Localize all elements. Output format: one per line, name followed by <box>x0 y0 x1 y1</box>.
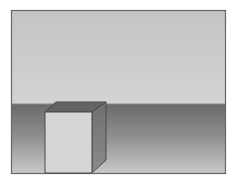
sky <box>11 10 226 104</box>
box-scene <box>0 0 238 181</box>
frame <box>11 10 226 174</box>
box <box>45 102 106 173</box>
floor <box>11 104 226 174</box>
box-front-face <box>45 112 92 173</box>
box-side-face <box>92 102 106 173</box>
